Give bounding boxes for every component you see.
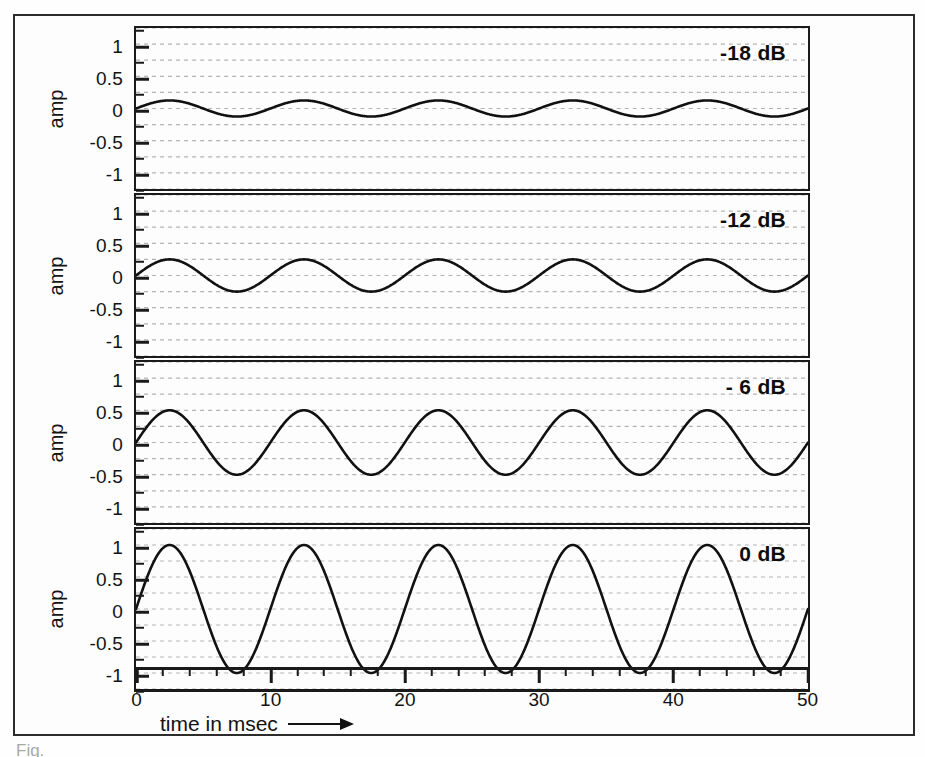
x-tick-label: 50 xyxy=(797,689,818,711)
y-axis-label-amp: amp xyxy=(45,256,68,295)
x-tick-minor xyxy=(189,667,191,676)
x-tick-label: 0 xyxy=(131,689,142,711)
x-tick-label: 20 xyxy=(394,689,415,711)
x-axis-title: time in msec xyxy=(160,712,354,736)
y-tick-label: 1 xyxy=(112,370,123,392)
y-tick-label: 0 xyxy=(112,100,123,122)
panel-plot-area xyxy=(136,529,808,689)
y-axis-label-amp: amp xyxy=(45,423,68,462)
y-tick-label: 0 xyxy=(112,434,123,456)
x-tick-minor xyxy=(511,667,513,676)
x-tick-major xyxy=(806,667,809,683)
x-tick-label: 30 xyxy=(529,689,550,711)
waveform-panel--18db: 10.50-0.5-1amp-18 dB xyxy=(134,26,810,191)
x-axis: 01020304050 xyxy=(134,667,810,689)
y-tick-label: -0.5 xyxy=(89,299,123,321)
x-tick-label: 10 xyxy=(260,689,281,711)
y-tick-minor xyxy=(136,356,144,358)
y-tick-label: -1 xyxy=(106,164,123,186)
y-tick-label: 0 xyxy=(112,267,123,289)
x-tick-major xyxy=(135,667,138,683)
figure-caption: Fig. xyxy=(16,741,44,757)
y-tick-label: 0.5 xyxy=(96,68,123,90)
x-tick-minor xyxy=(726,667,728,676)
y-tick-label: -0.5 xyxy=(89,132,123,154)
x-tick-minor xyxy=(779,667,781,676)
panel-db-annotation: - 6 dB xyxy=(726,375,786,399)
x-tick-minor xyxy=(457,667,459,676)
x-axis-title-text: time in msec xyxy=(160,712,278,736)
waveform-curve xyxy=(136,362,808,523)
panel-db-annotation: -12 dB xyxy=(720,208,786,232)
x-tick-major xyxy=(404,667,407,683)
y-tick-label: 0.5 xyxy=(96,569,123,591)
y-tick-label: -0.5 xyxy=(89,466,123,488)
x-tick-minor xyxy=(296,667,298,676)
panel-stack: 10.50-0.5-1amp-18 dB10.50-0.5-1amp-12 dB… xyxy=(134,26,810,670)
y-tick-label: 1 xyxy=(112,203,123,225)
x-tick-major xyxy=(269,667,272,683)
x-tick-minor xyxy=(243,667,245,676)
y-tick-label: 1 xyxy=(112,36,123,58)
x-tick-minor xyxy=(753,667,755,676)
x-tick-label: 40 xyxy=(663,689,684,711)
y-tick-label: 0.5 xyxy=(96,235,123,257)
x-tick-minor xyxy=(484,667,486,676)
x-tick-minor xyxy=(699,667,701,676)
x-tick-minor xyxy=(216,667,218,676)
panel-plot-area xyxy=(136,195,808,356)
x-tick-major xyxy=(672,667,675,683)
panel-plot-area xyxy=(136,362,808,523)
waveform-curve xyxy=(136,529,808,689)
x-tick-minor xyxy=(618,667,620,676)
x-tick-minor xyxy=(323,667,325,676)
figure-root: 10.50-0.5-1amp-18 dB10.50-0.5-1amp-12 dB… xyxy=(0,0,925,757)
y-tick-label: -1 xyxy=(106,331,123,353)
y-tick-label: -1 xyxy=(106,665,123,687)
x-tick-major xyxy=(538,667,541,683)
x-axis-line xyxy=(134,667,810,670)
y-axis-label-amp: amp xyxy=(45,590,68,629)
x-tick-minor xyxy=(377,667,379,676)
panel-plot-area xyxy=(136,28,808,189)
waveform-curve xyxy=(136,195,808,356)
y-tick-label: 0 xyxy=(112,601,123,623)
x-tick-minor xyxy=(162,667,164,676)
y-tick-label: -0.5 xyxy=(89,633,123,655)
x-tick-minor xyxy=(350,667,352,676)
y-tick-label: 1 xyxy=(112,537,123,559)
x-tick-minor xyxy=(565,667,567,676)
y-axis-label-amp: amp xyxy=(45,89,68,128)
waveform-panel--6db: 10.50-0.5-1amp- 6 dB xyxy=(134,360,810,525)
waveform-curve xyxy=(136,28,808,189)
waveform-panel--12db: 10.50-0.5-1amp-12 dB xyxy=(134,193,810,358)
x-tick-minor xyxy=(592,667,594,676)
panel-db-annotation: -18 dB xyxy=(720,41,786,65)
panel-db-annotation: 0 dB xyxy=(739,542,786,566)
x-tick-minor xyxy=(430,667,432,676)
y-tick-minor xyxy=(136,523,144,525)
right-arrow-icon xyxy=(288,718,354,730)
y-tick-label: -1 xyxy=(106,498,123,520)
x-tick-minor xyxy=(645,667,647,676)
y-tick-label: 0.5 xyxy=(96,402,123,424)
y-tick-minor xyxy=(136,189,144,191)
